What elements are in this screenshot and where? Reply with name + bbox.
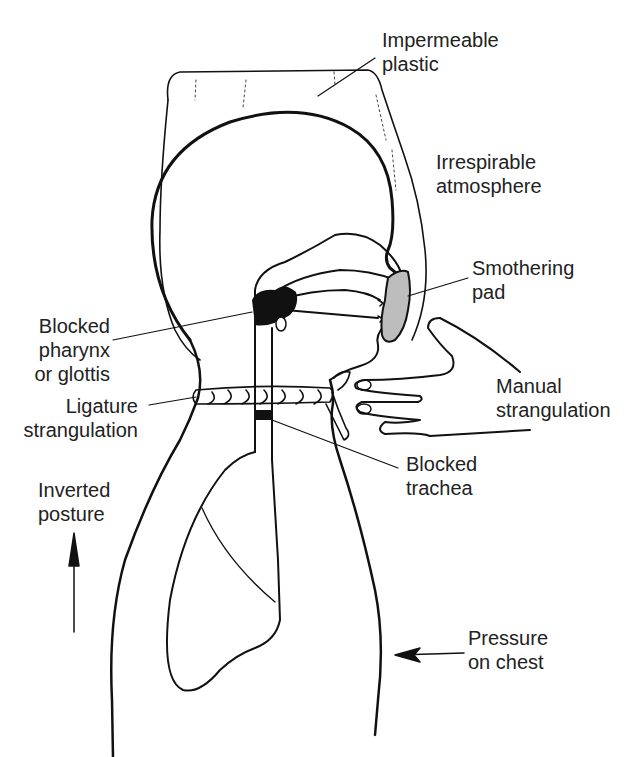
leader-line-pharynx [113,312,252,340]
label-inverted-posture: Inverted posture [38,478,110,526]
lung [167,452,280,691]
pressure-arrow [395,648,464,662]
smothering-pad-shape [381,271,410,342]
label-manual-strangulation: Manual strangulation [496,374,611,422]
label-impermeable-plastic: Impermeable plastic [382,28,499,76]
leader-line-plastic [318,58,375,96]
label-blocked-trachea: Blocked trachea [406,452,477,500]
label-smothering-pad: Smothering pad [472,256,574,304]
label-blocked-pharynx: Blocked pharynx or glottis [20,314,110,386]
leader-line-ligature [149,397,196,405]
inverted-posture-arrow [69,533,79,632]
neck-outline [111,340,381,757]
label-irrespirable-atmosphere: Irrespirable atmosphere [436,150,542,198]
label-pressure-on-chest: Pressure on chest [468,626,548,674]
pharynx-blockage [252,286,297,331]
label-ligature-strangulation: Ligature strangulation [10,394,138,442]
leader-line-pad [408,278,468,296]
